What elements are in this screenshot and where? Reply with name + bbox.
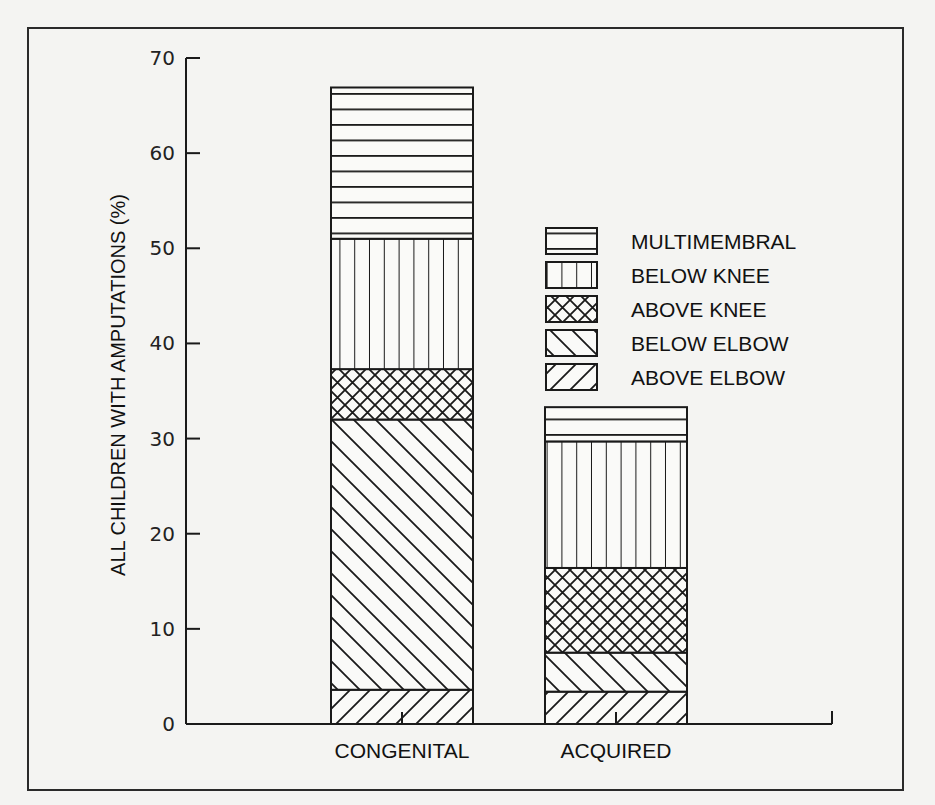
legend-swatch <box>546 262 597 288</box>
x-axis: CONGENITALACQUIRED <box>186 711 832 762</box>
y-tick-label: 20 <box>150 522 175 546</box>
y-tick-label: 60 <box>150 141 175 165</box>
y-tick-label: 40 <box>150 331 175 355</box>
segment-below-elbow <box>331 420 473 690</box>
segment-multimembral <box>331 87 473 238</box>
legend-label: BELOW ELBOW <box>631 332 789 355</box>
y-tick-label: 50 <box>150 236 175 260</box>
legend-label: MULTIMEMBRAL <box>631 230 796 253</box>
x-category-label: ACQUIRED <box>561 739 672 762</box>
segment-multimembral <box>545 407 687 441</box>
segment-below-knee <box>545 441 687 568</box>
legend-item-above-elbow: ABOVE ELBOW <box>546 364 785 390</box>
legend-swatch <box>546 330 597 356</box>
segment-above-knee <box>331 369 473 419</box>
legend-label: BELOW KNEE <box>631 264 770 287</box>
legend-item-below-elbow: BELOW ELBOW <box>546 330 789 356</box>
segment-below-elbow <box>545 653 687 692</box>
legend-item-below-knee: BELOW KNEE <box>546 262 770 288</box>
bars <box>331 87 687 724</box>
segment-above-knee <box>545 568 687 653</box>
stacked-bar-chart: 010203040506070 ALL CHILDREN WITH AMPUTA… <box>0 0 935 805</box>
legend-item-above-knee: ABOVE KNEE <box>546 296 766 322</box>
y-tick-label: 10 <box>150 617 175 641</box>
bar-acquired <box>545 407 687 724</box>
y-tick-label: 30 <box>150 427 175 451</box>
legend: MULTIMEMBRALBELOW KNEEABOVE KNEEBELOW EL… <box>546 228 796 390</box>
legend-label: ABOVE ELBOW <box>631 366 785 389</box>
legend-swatch <box>546 364 597 390</box>
y-tick-label: 0 <box>162 712 175 736</box>
y-axis-title: ALL CHILDREN WITH AMPUTATIONS (%) <box>107 194 129 576</box>
legend-item-multimembral: MULTIMEMBRAL <box>546 228 796 254</box>
legend-label: ABOVE KNEE <box>631 298 766 321</box>
x-category-label: CONGENITAL <box>335 739 470 762</box>
y-axis: 010203040506070 <box>150 46 200 736</box>
segment-below-knee <box>331 239 473 369</box>
bar-congenital <box>331 87 473 724</box>
y-tick-label: 70 <box>150 46 175 70</box>
legend-swatch <box>546 296 597 322</box>
legend-swatch <box>546 228 597 254</box>
